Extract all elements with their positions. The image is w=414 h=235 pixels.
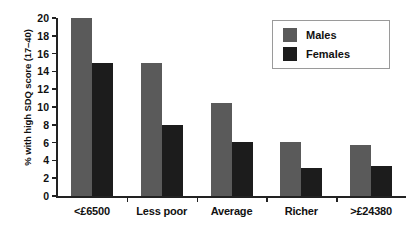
legend-item-males: Males — [283, 27, 337, 43]
bar-group — [141, 18, 183, 196]
y-tick-label: 16 — [37, 47, 49, 61]
y-tick-label: 6 — [43, 136, 49, 150]
y-tick-label: 12 — [37, 82, 49, 96]
x-axis-label-3: Richer — [266, 205, 336, 217]
x-axis-label-1: Less poor — [127, 205, 197, 217]
y-tick-mark — [52, 53, 56, 55]
y-tick-mark — [52, 88, 56, 90]
bar-females-1 — [162, 125, 183, 196]
y-tick-label: 2 — [43, 171, 49, 185]
bar-males-4 — [350, 145, 371, 196]
x-axis-label-2: Average — [197, 205, 267, 217]
y-axis-title: % with high SDQ score (17–40) — [22, 3, 33, 193]
x-tick-mark — [197, 197, 199, 202]
y-tick-mark — [52, 106, 56, 108]
y-tick-mark — [52, 160, 56, 162]
bar-males-3 — [280, 142, 301, 196]
bar-group — [211, 18, 253, 196]
legend: Males Females — [272, 20, 390, 69]
x-tick-mark — [127, 197, 129, 202]
bar-males-1 — [141, 63, 162, 197]
bar-females-2 — [232, 142, 253, 196]
x-axis-line — [56, 196, 406, 198]
bar-group — [71, 18, 113, 196]
y-tick-label: 20 — [37, 11, 49, 25]
y-tick-mark — [52, 35, 56, 37]
legend-item-females: Females — [283, 46, 350, 62]
y-tick-mark — [52, 124, 56, 126]
bar-females-0 — [92, 63, 113, 196]
y-tick-label: 18 — [37, 29, 49, 43]
x-tick-mark — [266, 197, 268, 202]
y-tick-mark — [52, 71, 56, 73]
legend-swatch-females-icon — [283, 47, 297, 61]
x-axis-label-4: >£24380 — [336, 205, 406, 217]
y-tick-mark — [52, 195, 56, 197]
y-tick-label: 14 — [37, 64, 49, 78]
y-tick-mark — [52, 142, 56, 144]
y-tick-label: 10 — [37, 100, 49, 114]
y-tick-mark — [52, 17, 56, 19]
bar-males-2 — [211, 103, 232, 196]
bar-females-3 — [301, 168, 322, 196]
y-tick-mark — [52, 177, 56, 179]
legend-label-males: Males — [306, 28, 337, 42]
x-tick-mark — [336, 197, 338, 202]
bar-chart: % with high SDQ score (17–40) 2018161412… — [0, 0, 414, 235]
y-tick-label: 8 — [43, 118, 49, 132]
bar-males-0 — [71, 18, 92, 196]
bar-females-4 — [371, 166, 392, 196]
legend-swatch-males-icon — [283, 28, 297, 42]
x-axis-label-0: <£6500 — [57, 205, 127, 217]
y-tick-label: 4 — [43, 153, 49, 167]
y-tick-label: 0 — [43, 189, 49, 203]
legend-label-females: Females — [306, 47, 350, 61]
